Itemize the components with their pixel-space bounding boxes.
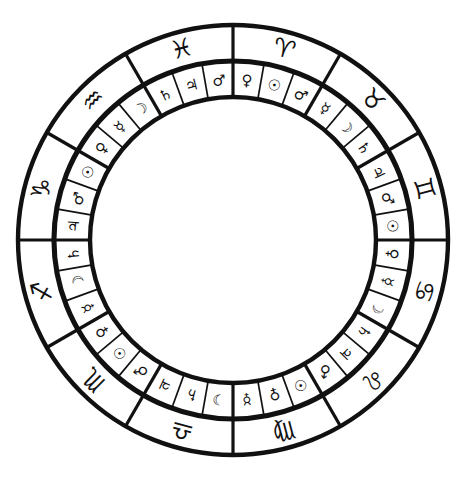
decan-glyph-pisces-saturn: ♄ [155,84,175,106]
decan-glyph-scorpio-sun: ☉ [109,342,131,364]
decan-divider-cancer-2 [374,265,408,271]
decan-glyph-cancer-mercury: ☿ [378,275,398,289]
decan-glyph-capricorn-mars: ♂ [68,190,89,208]
decan-glyph-capricorn-sun: ☉ [77,162,99,182]
decan-ring-outer-circle [55,62,411,418]
decan-divider-sagittarius-3 [58,265,92,271]
decan-glyph-sagittarius-mercury: ☿ [78,300,98,316]
decan-glyph-virgo-mercury: ☿ [242,390,253,409]
decan-divider-libra-2 [202,381,208,415]
decan-glyph-layer: ♀☉♂☿☽♄♃♂☉♀☿☽♄♃♂☉♀☿☽♄♃♂☉♀☿☽♄♃♂☉♀☿☽♄♃♂ [64,71,402,409]
sign-glyph-gemini: ♊ [407,174,441,203]
decan-glyph-pisces-jupiter: ♃ [183,75,201,96]
decan-divider-pisces-3 [202,65,208,99]
decan-glyph-gemini-sun: ☉ [383,219,402,234]
decan-glyph-gemini-jupiter: ♃ [367,162,389,182]
decan-glyph-taurus-mercury: ☿ [316,99,334,119]
decan-glyph-aries-venus: ♀ [241,71,254,90]
decan-glyph-scorpio-mars: ♂ [131,360,152,382]
decan-divider-gemini-3 [374,209,408,215]
sign-glyph-cancer: ♋ [407,277,441,306]
decan-glyph-leo-jupiter: ♃ [335,342,357,364]
inner-boundary-circle [90,97,376,383]
decan-glyph-scorpio-venus: ♀ [91,322,112,341]
sign-glyph-sagittarius: ♐ [25,277,59,306]
sign-glyph-libra: ♎ [167,414,196,448]
zodiac-wheel-figure: ♈♉♊♋♌♍♎♏♐♑♒♓ ♀☉♂☿☽♄♃♂☉♀☿☽♄♃♂☉♀☿☽♄♃♂☉♀☿☽♄… [0,0,466,478]
decan-glyph-libra-saturn: ♄ [183,384,201,405]
decan-divider-capricorn-2 [58,209,92,215]
decan-glyph-capricorn-jupiter: ♃ [64,219,83,234]
decan-glyph-aries-sun: ☉ [266,75,284,96]
decan-glyph-leo-mars: ♂ [314,360,335,382]
decan-divider-lines [58,65,409,416]
decan-divider-aries-2 [258,65,264,99]
decan-glyph-cancer-moon: ☽ [367,298,389,318]
decan-divider-virgo-3 [258,381,264,415]
decan-glyph-aries-mars: ♂ [291,84,311,106]
zodiac-wheel-canvas: ♈♉♊♋♌♍♎♏♐♑♒♓ ♀☉♂☿☽♄♃♂☉♀☿☽♄♃♂☉♀☿☽♄♃♂☉♀☿☽♄… [0,0,466,478]
decan-glyph-aquarius-venus: ♀ [91,139,112,158]
decan-glyph-sagittarius-saturn: ♄ [64,246,83,261]
decan-glyph-gemini-mars: ♂ [377,190,398,208]
decan-glyph-leo-saturn: ♄ [353,321,375,342]
decan-glyph-libra-moon: ☽ [212,390,227,409]
sign-glyph-virgo: ♍ [270,414,299,448]
decan-glyph-virgo-sun: ☉ [291,374,311,396]
sign-glyph-capricorn: ♑ [25,174,59,203]
decan-glyph-taurus-moon: ☽ [335,116,357,138]
decan-glyph-aquarius-mercury: ☿ [110,117,129,136]
sign-glyph-aries: ♈ [270,32,299,66]
decan-glyph-pisces-mars: ♂ [212,71,227,90]
decan-glyph-taurus-saturn: ♄ [353,138,375,159]
decan-glyph-cancer-venus: ♀ [383,248,402,261]
decan-glyph-aquarius-moon: ☽ [131,98,152,120]
decan-glyph-libra-jupiter: ♃ [155,374,175,396]
decan-glyph-sagittarius-moon: ☽ [68,273,89,291]
sign-glyph-pisces: ♓ [167,32,196,66]
decan-glyph-virgo-venus: ♀ [267,384,282,404]
